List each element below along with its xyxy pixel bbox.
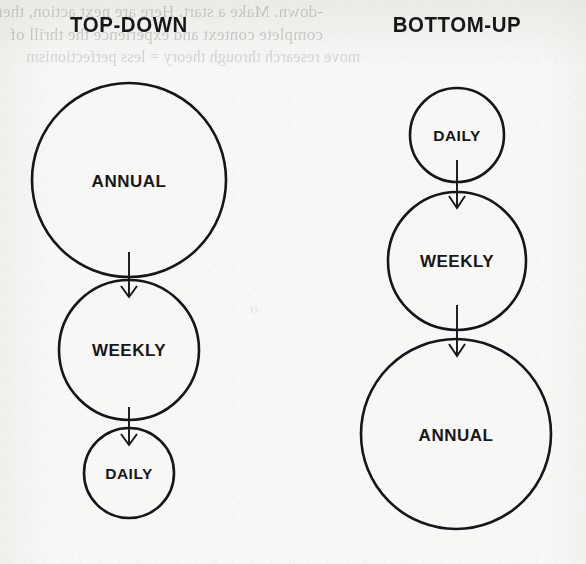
node-label-weekly-top-down: WEEKLY bbox=[92, 341, 166, 360]
column-top-down: ANNUAL WEEKLY DAILY bbox=[32, 83, 226, 518]
node-annual-bottom-up[interactable]: ANNUAL bbox=[361, 339, 551, 529]
node-label-daily-bottom-up: DAILY bbox=[433, 127, 481, 144]
node-label-weekly-bottom-up: WEEKLY bbox=[420, 252, 494, 271]
node-weekly-top-down[interactable]: WEEKLY bbox=[59, 280, 199, 420]
arrow-daily-to-weekly bbox=[449, 160, 465, 208]
node-label-annual-top-down: ANNUAL bbox=[92, 172, 167, 191]
node-annual-top-down[interactable]: ANNUAL bbox=[32, 83, 226, 277]
flow-diagram: ANNUAL WEEKLY DAILY DA bbox=[0, 0, 586, 564]
arrow-weekly-to-daily bbox=[121, 407, 137, 445]
node-label-daily-top-down: DAILY bbox=[105, 465, 153, 482]
column-bottom-up: DAILY WEEKLY ANNUAL bbox=[361, 88, 551, 529]
diagram-page: -down. Make a start. Here are next actio… bbox=[0, 0, 586, 564]
node-label-annual-bottom-up: ANNUAL bbox=[419, 426, 494, 445]
arrow-annual-to-weekly bbox=[121, 252, 137, 297]
